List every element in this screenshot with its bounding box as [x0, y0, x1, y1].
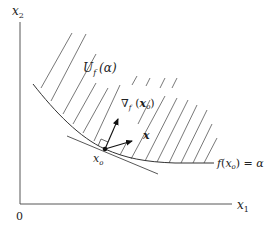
- hatching: [41, 33, 217, 163]
- contour-label: f(xo) = α: [216, 157, 264, 171]
- gradient-label: ∇f(xo): [121, 97, 155, 112]
- direction-vector: [105, 141, 132, 149]
- point-x0-label: xo: [93, 152, 103, 167]
- origin-label: 0: [16, 210, 23, 223]
- gradient-vector: [105, 119, 118, 149]
- level-set-diagram: x2 x1 0 Uf(α) ∇f(xo) x xo f(xo) = α: [0, 0, 274, 227]
- vector-x-label: x: [142, 129, 150, 142]
- region-label: Uf(α): [83, 61, 117, 77]
- x-axis-label: x1: [237, 198, 249, 214]
- y-axis-label: x2: [12, 4, 24, 20]
- point-x0: [103, 147, 108, 152]
